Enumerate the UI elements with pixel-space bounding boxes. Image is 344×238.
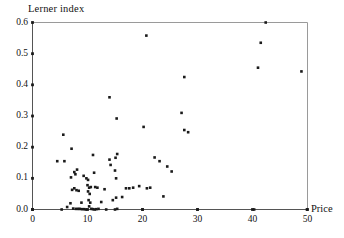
data-point	[69, 202, 72, 205]
data-point	[115, 196, 118, 199]
data-point	[306, 208, 309, 211]
data-point	[93, 171, 96, 174]
data-point	[105, 208, 108, 211]
data-point	[153, 156, 156, 159]
data-point	[138, 185, 141, 188]
data-point	[166, 165, 169, 168]
y-tick-mark	[31, 115, 34, 118]
y-tick-label: 0.3	[2, 110, 28, 120]
data-point	[85, 208, 88, 211]
data-point	[109, 164, 112, 167]
y-tick-label: 0.5	[2, 48, 28, 58]
data-point	[66, 206, 69, 209]
data-point	[121, 196, 124, 199]
data-point	[128, 187, 131, 190]
data-point	[253, 208, 256, 211]
data-point	[80, 201, 83, 204]
y-tick-label: 0.6	[2, 17, 28, 27]
data-point	[183, 76, 186, 79]
data-point	[132, 186, 135, 189]
data-point	[103, 188, 106, 191]
data-point	[87, 190, 90, 193]
x-tick-mark	[31, 208, 34, 211]
data-point	[92, 154, 95, 157]
y-tick-mark	[31, 83, 34, 86]
data-point	[183, 129, 186, 132]
data-point	[56, 160, 59, 163]
y-tick-mark	[31, 177, 34, 180]
x-tick-label: 20	[131, 214, 155, 224]
data-point	[196, 208, 199, 211]
data-point	[264, 21, 267, 24]
x-tick-label: 30	[186, 214, 210, 224]
data-point	[114, 156, 117, 159]
data-point	[60, 208, 63, 211]
y-tick-label: 0.2	[2, 141, 28, 151]
data-point	[90, 186, 93, 189]
data-point	[125, 187, 128, 190]
data-point	[158, 160, 161, 163]
data-point	[116, 208, 119, 211]
data-point	[62, 133, 65, 136]
data-point	[108, 158, 111, 161]
data-point	[76, 168, 79, 171]
data-point	[87, 199, 90, 202]
data-point	[88, 205, 91, 208]
data-point	[145, 34, 148, 37]
data-point	[142, 126, 145, 129]
data-point	[259, 41, 262, 44]
data-point	[97, 208, 100, 211]
y-tick-label: 0.0	[2, 204, 28, 214]
data-point	[170, 170, 173, 173]
data-point	[141, 208, 144, 211]
data-point	[112, 199, 115, 202]
data-point	[187, 131, 190, 134]
data-point	[74, 173, 77, 176]
data-point	[180, 112, 183, 115]
data-point	[115, 117, 118, 120]
data-point	[300, 70, 303, 73]
x-tick-label: 0	[21, 214, 45, 224]
data-point	[146, 187, 149, 190]
y-tick-label: 0.4	[2, 79, 28, 89]
y-tick-label: 0.1	[2, 172, 28, 182]
data-point	[149, 186, 152, 189]
x-tick-label: 40	[241, 214, 265, 224]
data-point	[63, 160, 66, 163]
data-point	[100, 201, 103, 204]
data-point	[115, 177, 118, 180]
data-point	[114, 169, 117, 172]
data-point	[116, 153, 119, 156]
plot-area	[0, 0, 344, 238]
data-point	[86, 184, 89, 187]
x-tick-label: 50	[296, 214, 320, 224]
data-point	[72, 207, 75, 210]
data-point	[89, 201, 92, 204]
data-point	[257, 66, 260, 69]
data-point	[108, 96, 111, 99]
data-point	[70, 147, 73, 150]
y-tick-mark	[31, 52, 34, 55]
data-point	[162, 195, 165, 198]
y-tick-mark	[31, 146, 34, 149]
data-point	[87, 179, 90, 182]
y-tick-mark	[31, 21, 34, 24]
data-point	[88, 193, 91, 196]
data-point	[96, 186, 99, 189]
data-point	[82, 175, 85, 178]
x-tick-label: 10	[76, 214, 100, 224]
data-point	[70, 176, 73, 179]
data-point	[77, 190, 80, 193]
scatter-chart-figure: Lerner index Price 0.00.10.20.30.40.50.6…	[0, 0, 344, 238]
